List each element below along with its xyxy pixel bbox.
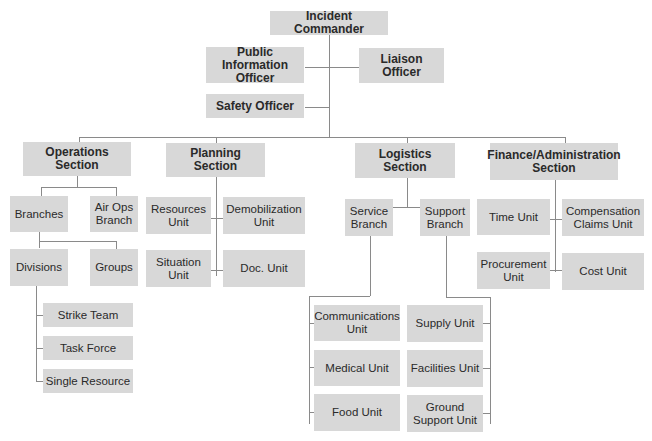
node-situation-unit: Situation Unit (146, 250, 211, 287)
node-time-unit: Time Unit (477, 199, 550, 235)
connector (370, 236, 371, 296)
node-strike-team: Strike Team (43, 303, 133, 327)
node-service-branch: Service Branch (345, 199, 393, 236)
connector (309, 296, 370, 297)
connector (309, 296, 310, 424)
node-liaison-officer: Liaison Officer (359, 48, 444, 83)
connector (116, 241, 117, 249)
connector (39, 232, 40, 248)
connector (483, 368, 490, 369)
node-single-resource: Single Resource (43, 369, 133, 393)
node-incident-commander: Incident Commander (270, 11, 388, 35)
node-medical-unit: Medical Unit (314, 350, 400, 386)
connector (483, 323, 490, 324)
connector (41, 187, 116, 188)
node-planning-section: Planning Section (166, 143, 265, 177)
connector (36, 286, 37, 382)
connector (550, 270, 562, 271)
connector (77, 176, 78, 187)
connector (211, 270, 223, 271)
connector (483, 413, 490, 414)
node-doc-unit: Doc. Unit (223, 250, 305, 287)
connector (305, 67, 359, 68)
connector (39, 241, 116, 242)
node-task-force: Task Force (43, 336, 133, 360)
node-ground-support-unit: Ground Support Unit (407, 395, 483, 432)
connector (216, 176, 217, 276)
connector (555, 180, 556, 272)
node-logistics-section: Logistics Section (355, 143, 455, 178)
node-air-ops-branch: Air Ops Branch (90, 196, 138, 232)
node-resources-unit: Resources Unit (146, 197, 211, 234)
node-compensation-claims-unit: Compensation Claims Unit (562, 199, 644, 236)
connector (329, 33, 330, 137)
node-demobilization-unit: Demobilization Unit (223, 197, 305, 234)
connector (211, 218, 223, 219)
node-divisions: Divisions (10, 249, 68, 286)
node-public-information-officer: Public Information Officer (206, 47, 304, 83)
node-food-unit: Food Unit (314, 394, 400, 431)
connector (393, 207, 420, 208)
node-procurement-unit: Procurement Unit (477, 252, 550, 289)
node-cost-unit: Cost Unit (562, 253, 644, 290)
node-facilities-unit: Facilities Unit (407, 350, 483, 387)
connector (490, 297, 491, 424)
connector (79, 137, 565, 138)
node-communications-unit: Communications Unit (314, 305, 400, 341)
node-finance-admin-section: Finance/Administration Section (490, 143, 618, 180)
node-operations-section: Operations Section (23, 142, 131, 176)
node-support-branch: Support Branch (420, 199, 470, 236)
connector (446, 236, 447, 297)
node-groups: Groups (90, 249, 138, 286)
connector (407, 177, 408, 207)
node-safety-officer: Safety Officer (206, 94, 304, 118)
connector (305, 107, 329, 108)
connector (446, 297, 490, 298)
connector (550, 219, 562, 220)
node-supply-unit: Supply Unit (407, 305, 483, 342)
node-branches: Branches (10, 196, 68, 232)
